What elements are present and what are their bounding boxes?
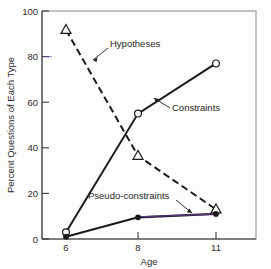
x-axis-title: Age (141, 256, 158, 267)
x-tick-marks (66, 232, 216, 239)
chart-figure: 100 80 60 40 20 0 6 8 11 Age Percent Que… (0, 0, 271, 269)
y-tick-label-0: 0 (33, 234, 38, 245)
line-chart: 100 80 60 40 20 0 6 8 11 Age Percent Que… (0, 0, 271, 269)
series-constraints (63, 60, 220, 236)
hypotheses-line (66, 30, 216, 210)
y-axis-title: Percent Questions of Each Type (5, 57, 16, 193)
x-tick-label-8: 8 (135, 242, 140, 253)
pseudo-constraints-marker-age11 (213, 211, 219, 217)
pseudo-constraints-marker-age6 (63, 234, 69, 240)
x-tick-label-11: 11 (211, 242, 221, 253)
series-hypotheses (61, 25, 221, 213)
constraints-line (66, 63, 216, 232)
series-pseudo-constraints (63, 211, 219, 240)
hypotheses-marker-age6 (61, 25, 71, 34)
pseudo-constraints-label: Pseudo-constraints (88, 190, 170, 201)
hypotheses-marker-age8 (133, 150, 143, 159)
y-tick-marks (42, 11, 49, 239)
y-tick-label-40: 40 (27, 142, 38, 153)
hypotheses-label: Hypotheses (110, 38, 160, 49)
y-tick-label-60: 60 (27, 97, 38, 108)
y-tick-label-80: 80 (27, 51, 38, 62)
hypotheses-leader (93, 48, 108, 60)
y-tick-label-20: 20 (27, 188, 38, 199)
constraints-label: Constraints (172, 102, 220, 113)
constraints-marker-age11 (213, 60, 220, 67)
pseudo-constraints-marker-age8 (135, 214, 141, 220)
constraints-marker-age8 (135, 110, 142, 117)
x-tick-label-6: 6 (63, 242, 68, 253)
y-tick-label-100: 100 (22, 6, 38, 17)
